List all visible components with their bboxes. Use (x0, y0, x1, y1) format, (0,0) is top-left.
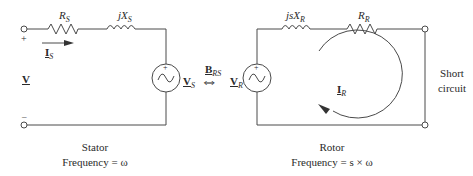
rotor-caption: RotorFrequency = s × ω (272, 140, 392, 170)
rotor-sine-icon (249, 74, 265, 82)
rotor-resistor-label: RR (358, 10, 370, 21)
stator-source-voltage-label: VS (183, 76, 195, 87)
plus-sign-top: + (21, 34, 27, 44)
arrowhead-icon (318, 104, 330, 114)
rotor-terminal-bottom (422, 122, 428, 128)
stator-inductor (107, 26, 135, 30)
rotor-reactance-label: jsXR (286, 10, 305, 21)
minus-sign-bottom: – (22, 112, 27, 121)
arrowhead-icon (64, 40, 74, 46)
rotor-current-arc (319, 30, 402, 118)
stator-caption: StatorFrequency = ω (40, 140, 150, 170)
stator-current-label: IS (45, 47, 53, 58)
terminal-voltage-label: V (22, 74, 30, 85)
stator-sine-icon (158, 74, 174, 82)
rotor-terminal-top (422, 26, 428, 32)
stator-resistor-label: RS (59, 10, 70, 21)
rotor-current-label: IR (337, 84, 346, 95)
rotor-source-voltage-label: VR (230, 76, 243, 87)
rotor-source-plus: + (254, 64, 259, 72)
short-circuit-label: Shortcircuit (432, 66, 472, 96)
stator-terminal-bottom (21, 122, 27, 128)
stator-reactance-label: jXS (118, 10, 132, 21)
coupling-arrow-icon: ⇔ (200, 72, 218, 90)
rotor-inductor (282, 26, 310, 30)
stator-terminal-top (21, 26, 27, 32)
stator-resistor (48, 24, 78, 34)
stator-source-plus: + (163, 64, 168, 72)
